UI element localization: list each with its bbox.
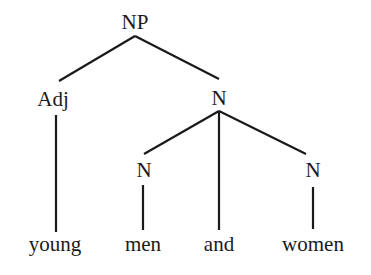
word-women: women bbox=[282, 234, 344, 255]
edge-n-nleft bbox=[144, 111, 219, 154]
edge-np-n bbox=[135, 36, 219, 79]
node-adj: Adj bbox=[37, 89, 69, 110]
edge-np-adj bbox=[59, 36, 135, 81]
node-n-left: N bbox=[136, 160, 151, 181]
word-and: and bbox=[204, 234, 234, 255]
word-men: men bbox=[125, 234, 161, 255]
edge-n-nright bbox=[219, 111, 306, 154]
node-n-right: N bbox=[305, 160, 320, 181]
word-young: young bbox=[29, 234, 82, 255]
node-n-top: N bbox=[211, 88, 226, 109]
node-np: NP bbox=[122, 12, 149, 33]
